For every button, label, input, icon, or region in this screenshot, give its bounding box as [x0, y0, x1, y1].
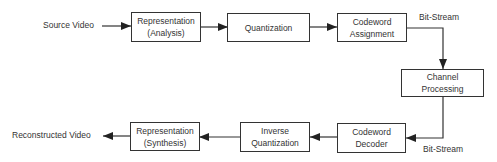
box-line2: Quantization: [251, 137, 299, 149]
quantization-box: Quantization: [227, 13, 310, 42]
box-line1: Inverse: [261, 125, 289, 137]
codeword-assignment-box: Codeword Assignment: [337, 13, 407, 42]
box-line2: Assignment: [350, 28, 394, 40]
box-line1: Codeword: [353, 16, 392, 28]
box-line1: Channel: [427, 71, 459, 83]
box-line1: Representation: [137, 15, 195, 27]
video-coding-diagram: Source Video Reconstructed Video Represe…: [0, 0, 497, 162]
source-video-label: Source Video: [43, 20, 94, 30]
box-line2: (Analysis): [147, 27, 184, 39]
box-line1: Quantization: [245, 22, 293, 34]
representation-synthesis-box: Representation (Synthesis): [130, 122, 200, 151]
box-line1: Codeword: [352, 126, 391, 138]
box-line2: (Synthesis): [144, 137, 187, 149]
codeword-decoder-box: Codeword Decoder: [337, 123, 406, 153]
representation-analysis-box: Representation (Analysis): [131, 12, 201, 42]
bitstream-top-label: Bit-Stream: [419, 12, 459, 22]
box-line2: Processing: [421, 83, 463, 95]
channel-processing-box: Channel Processing: [401, 69, 484, 97]
box-line1: Representation: [136, 125, 194, 137]
inverse-quantization-box: Inverse Quantization: [240, 122, 310, 152]
reconstructed-video-label: Reconstructed Video: [12, 130, 91, 140]
bitstream-bottom-label: Bit-Stream: [423, 144, 463, 154]
box-line2: Decoder: [355, 138, 387, 150]
